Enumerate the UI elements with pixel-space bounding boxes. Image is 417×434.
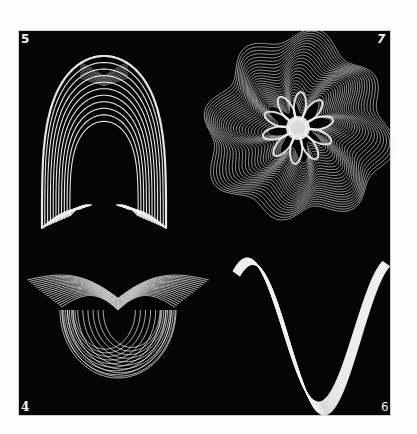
figure-6-ncurve [233,258,390,415]
figure-4-wings [27,275,209,378]
figure-5-arch [42,56,166,228]
figure-label-7: 7 [377,33,385,45]
figure-7-rosette [204,29,395,220]
harmonograph-figures [0,0,417,434]
figure-label-6: 6 [381,401,389,413]
figure-label-5: 5 [21,33,29,45]
figure-label-4: 4 [21,401,29,413]
